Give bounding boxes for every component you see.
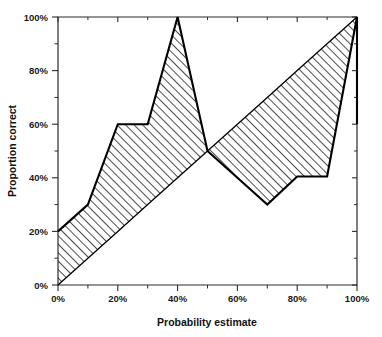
chart-canvas: 0%20%40%60%80%100% 0%20%40%60%80%100% Pr… (0, 0, 382, 337)
x-axis-title: Probability estimate (157, 316, 257, 328)
y-axis-tick-labels: 0%20%40%60%80%100% (24, 12, 49, 291)
x-tick-label: 60% (228, 293, 248, 304)
y-tick-label: 100% (24, 12, 49, 23)
calibration-chart-figure: 0%20%40%60%80%100% 0%20%40%60%80%100% Pr… (0, 0, 382, 337)
y-tick-label: 0% (34, 280, 48, 291)
y-tick-label: 80% (29, 65, 49, 76)
x-tick-label: 80% (288, 293, 308, 304)
x-tick-label: 20% (108, 293, 128, 304)
x-tick-label: 40% (168, 293, 188, 304)
top-axis-ticks (58, 17, 357, 22)
x-tick-label: 100% (345, 293, 370, 304)
x-axis-tick-labels: 0%20%40%60%80%100% (51, 293, 370, 304)
y-tick-label: 60% (29, 119, 49, 130)
y-tick-label: 20% (29, 226, 49, 237)
x-tick-label: 0% (51, 293, 65, 304)
y-axis-title: Proportion correct (6, 104, 18, 197)
y-tick-label: 40% (29, 172, 49, 183)
